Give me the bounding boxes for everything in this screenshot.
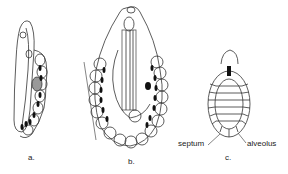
panel-c-dark-mark xyxy=(227,66,231,76)
panel-label-b: b. xyxy=(128,158,135,166)
panel-label-a: a. xyxy=(28,154,35,162)
panel-c-drawing xyxy=(208,50,250,145)
scientific-illustration xyxy=(0,0,288,174)
alveolus-annotation: alveolus xyxy=(247,140,276,148)
septum-annotation: septum xyxy=(178,140,204,148)
panel-label-c: c. xyxy=(225,154,231,162)
panel-b-dark-marks xyxy=(100,65,158,128)
